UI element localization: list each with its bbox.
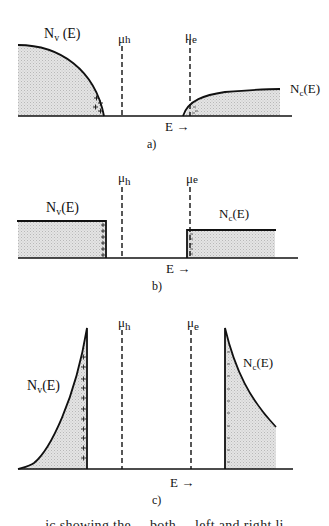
mu-e-label: μe: [186, 171, 198, 186]
mu-h-label: μh: [118, 170, 131, 187]
conduction-label: Nc(E): [243, 355, 273, 372]
energy-axis-label: E →: [170, 475, 194, 490]
mu-e-label: μe: [187, 315, 199, 332]
panel-label-c: c): [152, 493, 161, 507]
panel-c: Nv(E) μh μe Nc(E) E → c): [18, 315, 293, 507]
energy-axis-label: E →: [165, 119, 189, 134]
conduction-label: Nc(E): [219, 206, 249, 223]
band-diagram-figure: Nv (E) μh μe Nc(E) E → a) Nv(E) μh μe Nc…: [0, 0, 329, 526]
panel-label-b: b): [152, 279, 162, 293]
panel-a: Nv (E) μh μe Nc(E) E → a): [18, 26, 320, 151]
panel-b: Nv(E) μh μe Nc(E) E → b): [17, 170, 298, 293]
energy-axis-label: E →: [166, 261, 190, 276]
valence-label: Nv(E): [46, 200, 79, 217]
mu-h-label: μh: [118, 31, 131, 46]
conduction-band-fill: [187, 230, 275, 258]
panel-label-a: a): [147, 137, 156, 151]
valence-band-fill: [18, 221, 106, 258]
valence-band-fill: [18, 328, 87, 469]
mu-e-label: μe: [185, 28, 197, 45]
valence-label: Nv (E): [44, 26, 81, 43]
conduction-label: Nc(E): [290, 81, 320, 98]
conduction-band-fill: [225, 328, 276, 469]
valence-label: Nv(E): [27, 378, 60, 395]
conduction-band-fill: [185, 89, 280, 116]
figure-caption-partial: ic showing the ... both ... left and rig…: [0, 517, 329, 526]
mu-h-label: μh: [118, 315, 131, 332]
